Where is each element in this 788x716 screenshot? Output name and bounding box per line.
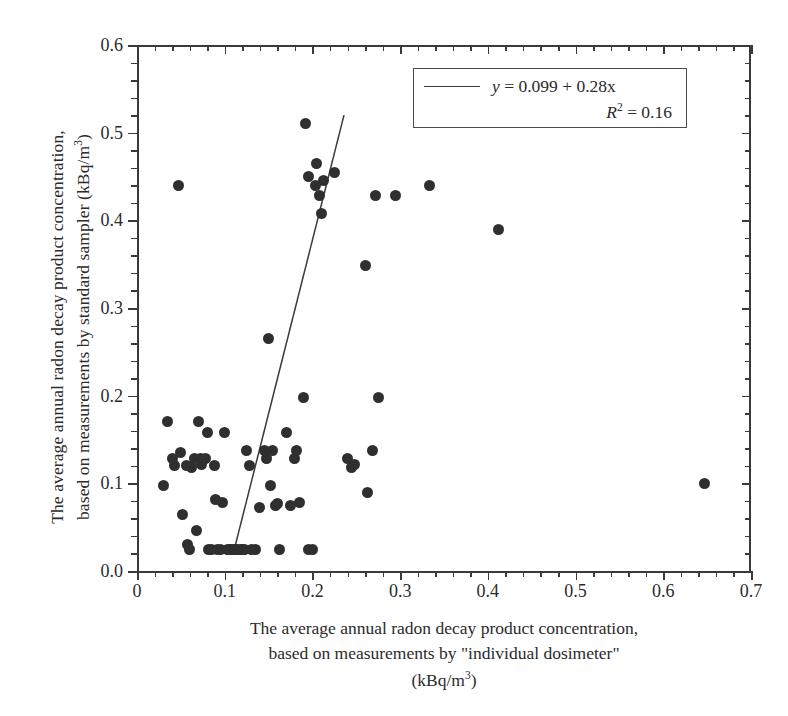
top-tick xyxy=(137,45,139,54)
right-tick xyxy=(745,343,751,345)
y-tick-minor xyxy=(131,115,137,117)
right-tick xyxy=(742,45,751,47)
data-point xyxy=(291,445,302,456)
x-tick-label: 0.2 xyxy=(277,581,347,602)
top-tick xyxy=(646,45,648,51)
x-tick-minor xyxy=(628,571,630,577)
right-tick xyxy=(745,290,751,292)
x-tick-minor xyxy=(435,571,437,577)
x-tick-major xyxy=(312,571,314,580)
x-tick-minor xyxy=(681,571,683,577)
x-tick-major xyxy=(488,571,490,580)
x-tick-minor xyxy=(540,571,542,577)
y-tick-minor xyxy=(131,203,137,205)
legend-r2-text: R2 = 0.16 xyxy=(606,101,672,123)
x-tick-minor xyxy=(172,571,174,577)
top-tick xyxy=(453,45,455,51)
top-tick xyxy=(593,45,595,51)
right-tick xyxy=(742,571,751,573)
right-tick xyxy=(742,133,751,135)
y-tick-minor xyxy=(131,361,137,363)
right-tick xyxy=(742,483,751,485)
x-tick-label: 0.1 xyxy=(190,581,260,602)
top-tick xyxy=(505,45,507,51)
y-tick-label: 0.6 xyxy=(77,35,137,56)
y-tick-minor xyxy=(131,448,137,450)
right-tick xyxy=(745,238,751,240)
top-tick xyxy=(260,45,262,51)
x-tick-minor xyxy=(611,571,613,577)
x-tick-minor xyxy=(383,571,385,577)
y-tick-minor xyxy=(131,290,137,292)
right-tick xyxy=(745,185,751,187)
y-tick-minor xyxy=(131,238,137,240)
top-tick xyxy=(330,45,332,51)
y-tick-minor xyxy=(131,80,137,82)
x-tick-minor xyxy=(295,571,297,577)
y-tick-minor xyxy=(131,185,137,187)
y-tick-label: 0.5 xyxy=(77,122,137,143)
data-point xyxy=(272,498,283,509)
top-tick xyxy=(383,45,385,51)
data-point xyxy=(217,497,228,508)
x-tick-label: 0 xyxy=(102,581,172,602)
x-tick-major xyxy=(225,571,227,580)
y-tick-minor xyxy=(131,378,137,380)
right-tick xyxy=(745,448,751,450)
right-tick xyxy=(745,326,751,328)
top-tick xyxy=(576,45,578,54)
data-point xyxy=(184,544,195,555)
x-axis-unit-close: ) xyxy=(471,670,477,690)
y-tick-label: 0.3 xyxy=(77,298,137,319)
x-tick-minor xyxy=(260,571,262,577)
x-tick-minor xyxy=(242,571,244,577)
data-point xyxy=(318,175,329,186)
data-point xyxy=(373,392,384,403)
right-tick xyxy=(745,536,751,538)
data-point xyxy=(360,260,371,271)
y-tick-label: 0.2 xyxy=(77,385,137,406)
right-tick xyxy=(745,273,751,275)
data-point xyxy=(219,427,230,438)
x-axis-title-line-3: (kBq/m3) xyxy=(137,667,751,693)
right-tick xyxy=(745,431,751,433)
x-tick-minor xyxy=(698,571,700,577)
data-point xyxy=(370,190,381,201)
x-axis-title: The average annual radon decay product c… xyxy=(137,616,751,693)
y-tick-minor xyxy=(131,273,137,275)
data-point xyxy=(316,208,327,219)
top-tick xyxy=(242,45,244,51)
x-tick-major xyxy=(751,571,753,580)
data-point xyxy=(202,427,213,438)
right-tick xyxy=(745,466,751,468)
top-tick xyxy=(312,45,314,54)
y-tick-label: 0.1 xyxy=(77,473,137,494)
right-tick xyxy=(745,150,751,152)
y-axis-title-line-2: based on measurements by standard sample… xyxy=(70,134,96,520)
x-axis-line xyxy=(137,571,751,573)
top-tick xyxy=(225,45,227,54)
x-tick-label: 0.3 xyxy=(365,581,435,602)
top-tick xyxy=(277,45,279,51)
data-point xyxy=(250,544,261,555)
data-point xyxy=(175,447,186,458)
y-tick-minor xyxy=(131,63,137,65)
x-tick-minor xyxy=(646,571,648,577)
top-tick xyxy=(435,45,437,51)
top-tick xyxy=(523,45,525,51)
right-tick xyxy=(745,98,751,100)
x-tick-minor xyxy=(593,571,595,577)
data-point xyxy=(390,190,401,201)
right-tick xyxy=(742,396,751,398)
x-tick-minor xyxy=(733,571,735,577)
legend-row-equation: y = 0.099 + 0.28x xyxy=(424,74,672,99)
y-axis-title-line-1: The average annual radon decay product c… xyxy=(45,130,70,524)
data-point xyxy=(307,544,318,555)
right-tick xyxy=(745,413,751,415)
right-tick xyxy=(745,378,751,380)
scatter-plot-figure: The average annual radon decay product c… xyxy=(0,0,788,716)
x-tick-minor xyxy=(470,571,472,577)
data-point xyxy=(314,190,325,201)
x-tick-minor xyxy=(716,571,718,577)
data-point xyxy=(254,502,265,513)
